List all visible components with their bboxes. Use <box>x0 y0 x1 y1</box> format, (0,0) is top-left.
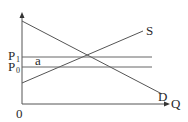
demand-label: D <box>158 89 167 104</box>
supply-label: S <box>146 23 153 38</box>
p1-subscript: 1 <box>16 55 20 64</box>
region-a-label: a <box>35 53 41 68</box>
x-axis-label: Q <box>171 96 181 111</box>
p0-label: P <box>8 59 15 74</box>
origin-label: 0 <box>16 106 23 121</box>
p0-subscript: 0 <box>16 66 20 75</box>
supply-demand-diagram: S D Q 0 a P 1 P 0 <box>0 0 188 122</box>
y-axis-arrow-icon <box>20 12 25 18</box>
